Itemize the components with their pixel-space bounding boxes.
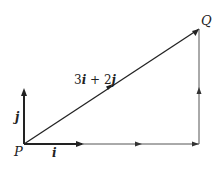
j-arrow-icon bbox=[21, 88, 27, 96]
resultant-plus-2: + 2 bbox=[86, 73, 111, 87]
horizontal-arrow-3-icon bbox=[192, 142, 199, 147]
label-resultant: 3i + 2j bbox=[74, 73, 117, 87]
label-Q: Q bbox=[201, 13, 212, 28]
horizontal-arrow-2-icon bbox=[135, 142, 142, 147]
label-i: i bbox=[52, 146, 57, 160]
resultant-j: j bbox=[110, 73, 117, 87]
label-j: j bbox=[13, 110, 20, 124]
vertical-arrow-1-icon bbox=[197, 87, 202, 94]
vector-diagram: P Q i j 3i + 2j bbox=[0, 0, 221, 177]
resultant-coef-3: 3 bbox=[74, 73, 82, 87]
label-P: P bbox=[13, 144, 23, 159]
resultant-end-arrow-icon bbox=[192, 29, 199, 36]
